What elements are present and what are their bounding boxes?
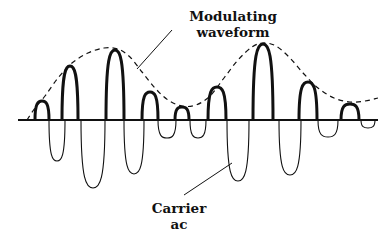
- modulating-label-line2: waveform: [195, 24, 269, 40]
- carrier-trough-8: [318, 120, 338, 137]
- carrier-trough-9: [361, 120, 375, 128]
- carrier-peak-7: [253, 44, 273, 120]
- carrier-trough-1: [49, 120, 65, 161]
- carrier-label-line2: ac: [171, 216, 188, 232]
- carrier-trough-7: [279, 120, 301, 175]
- carrier-peak-2: [62, 66, 78, 120]
- am-diagram: Modulating waveform Carrier ac: [0, 0, 387, 242]
- carrier-negative-half-cycles: [49, 120, 375, 188]
- carrier-peak-4: [142, 92, 158, 120]
- carrier-peak-1: [35, 101, 49, 120]
- carrier-peak-6: [208, 87, 226, 120]
- carrier-leader-line: [184, 163, 232, 195]
- modulating-leader-line: [137, 30, 172, 69]
- carrier-trough-4: [158, 120, 176, 138]
- carrier-trough-3: [124, 120, 144, 174]
- carrier-trough-2: [81, 120, 105, 188]
- carrier-trough-5: [190, 120, 206, 138]
- carrier-peak-9: [341, 104, 359, 120]
- carrier-positive-half-cycles: [35, 44, 359, 120]
- carrier-trough-6: [227, 120, 249, 181]
- carrier-peak-5: [175, 107, 189, 120]
- modulating-envelope-dashed: [27, 43, 378, 120]
- carrier-label-line1: Carrier: [152, 200, 207, 216]
- carrier-peak-3: [106, 50, 124, 120]
- modulating-label-line1: Modulating: [189, 8, 277, 24]
- carrier-peak-8: [299, 82, 317, 120]
